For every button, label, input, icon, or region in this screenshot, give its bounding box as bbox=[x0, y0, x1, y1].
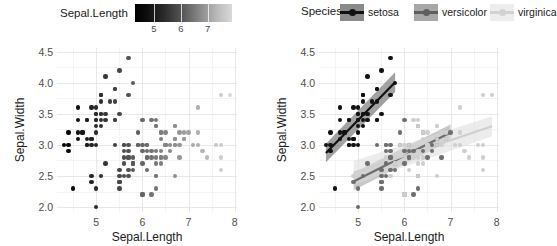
data-point bbox=[140, 192, 144, 196]
data-point bbox=[131, 168, 135, 172]
data-point-setosa bbox=[342, 130, 346, 134]
species-legend-key-virginica[interactable] bbox=[490, 4, 514, 21]
data-point bbox=[196, 130, 200, 134]
data-point-virginica bbox=[421, 137, 425, 141]
data-point bbox=[126, 56, 130, 60]
legend-key-point bbox=[349, 9, 356, 16]
data-point-virginica bbox=[411, 118, 415, 122]
species-legend-key-setosa[interactable] bbox=[340, 4, 364, 21]
gridline-minor-y bbox=[57, 98, 237, 99]
gridline-major-y bbox=[57, 176, 237, 177]
data-point bbox=[117, 168, 121, 172]
data-point-virginica bbox=[435, 137, 439, 141]
y-tick-label: 2.5 bbox=[31, 170, 53, 182]
gridline-major-x bbox=[235, 48, 236, 212]
data-point bbox=[145, 143, 149, 147]
data-point bbox=[85, 143, 89, 147]
data-point bbox=[154, 186, 158, 190]
data-point-versicolor bbox=[439, 155, 443, 159]
colorbar-tick-mark bbox=[154, 4, 155, 22]
data-point-virginica bbox=[439, 130, 443, 134]
species-legend-title: Species bbox=[301, 5, 342, 17]
data-point bbox=[71, 186, 75, 190]
data-point bbox=[219, 143, 223, 147]
data-point-versicolor bbox=[402, 149, 406, 153]
gridline-minor-y bbox=[57, 192, 237, 193]
data-point bbox=[103, 74, 107, 78]
data-point bbox=[140, 118, 144, 122]
data-point-virginica bbox=[416, 155, 420, 159]
colorbar-tick-5: 5 bbox=[151, 23, 156, 34]
colorbar-tick-mark bbox=[181, 4, 182, 22]
data-point bbox=[163, 143, 167, 147]
data-point-versicolor bbox=[356, 186, 360, 190]
data-point bbox=[177, 130, 181, 134]
data-point bbox=[219, 93, 223, 97]
data-point-virginica bbox=[444, 130, 448, 134]
x-tick-label: 5 bbox=[355, 216, 361, 228]
y-tick-label: 3.5 bbox=[31, 108, 53, 120]
x-tick-label: 6 bbox=[401, 216, 407, 228]
data-point-virginica bbox=[439, 143, 443, 147]
data-point-versicolor bbox=[375, 143, 379, 147]
scatter-plot-left bbox=[57, 48, 237, 212]
data-point bbox=[163, 130, 167, 134]
data-point-versicolor bbox=[402, 161, 406, 165]
y-tick-label: 2.0 bbox=[293, 201, 315, 213]
data-point-versicolor bbox=[384, 161, 388, 165]
data-point-versicolor bbox=[388, 149, 392, 153]
data-point-setosa bbox=[365, 112, 369, 116]
gridline-major-y bbox=[57, 83, 237, 84]
species-legend-key-versicolor[interactable] bbox=[414, 4, 438, 21]
data-point bbox=[131, 161, 135, 165]
data-point-setosa bbox=[338, 137, 342, 141]
data-point-versicolor bbox=[388, 143, 392, 147]
y-tick-label: 3.5 bbox=[293, 108, 315, 120]
gridline-minor-y bbox=[57, 160, 237, 161]
scatter-plot-right bbox=[319, 48, 499, 212]
data-point bbox=[89, 105, 93, 109]
data-point bbox=[219, 168, 223, 172]
data-point-setosa bbox=[333, 186, 337, 190]
data-point-virginica bbox=[458, 143, 462, 147]
colorbar-tick-labels: 567 bbox=[135, 23, 232, 37]
species-legend-label-virginica: virginica bbox=[518, 6, 557, 18]
y-tick-label: 3.0 bbox=[293, 139, 315, 151]
data-point bbox=[94, 205, 98, 209]
data-point-setosa bbox=[375, 118, 379, 122]
data-point-virginica bbox=[402, 143, 406, 147]
data-point-virginica bbox=[444, 137, 448, 141]
panel-left: Sepal.Length 567 Sepal.Length Sepal.Widt… bbox=[0, 0, 262, 246]
data-point bbox=[163, 155, 167, 159]
data-point-versicolor bbox=[425, 155, 429, 159]
data-point bbox=[159, 137, 163, 141]
data-point bbox=[126, 143, 130, 147]
data-point bbox=[200, 149, 204, 153]
data-point bbox=[136, 143, 140, 147]
x-axis-title-left: Sepal.Length bbox=[112, 230, 183, 244]
data-point bbox=[117, 186, 121, 190]
data-point bbox=[196, 143, 200, 147]
data-point bbox=[117, 174, 121, 178]
gridline-major-x bbox=[142, 48, 143, 212]
data-point bbox=[186, 130, 190, 134]
data-point bbox=[177, 155, 181, 159]
data-point-setosa bbox=[361, 99, 365, 103]
data-point bbox=[99, 93, 103, 97]
x-tick-label: 8 bbox=[232, 216, 238, 228]
data-point-setosa bbox=[328, 149, 332, 153]
data-point bbox=[76, 130, 80, 134]
data-point-virginica bbox=[481, 143, 485, 147]
data-point-virginica bbox=[398, 143, 402, 147]
data-point bbox=[154, 161, 158, 165]
data-point-setosa bbox=[388, 56, 392, 60]
colorbar-legend: Sepal.Length 567 bbox=[0, 0, 262, 40]
data-point bbox=[159, 149, 163, 153]
data-point-virginica bbox=[435, 143, 439, 147]
data-point bbox=[80, 130, 84, 134]
data-point bbox=[159, 130, 163, 134]
data-point bbox=[196, 105, 200, 109]
legend-key-point bbox=[499, 9, 506, 16]
x-tick-label: 6 bbox=[139, 216, 145, 228]
data-point-virginica bbox=[388, 174, 392, 178]
